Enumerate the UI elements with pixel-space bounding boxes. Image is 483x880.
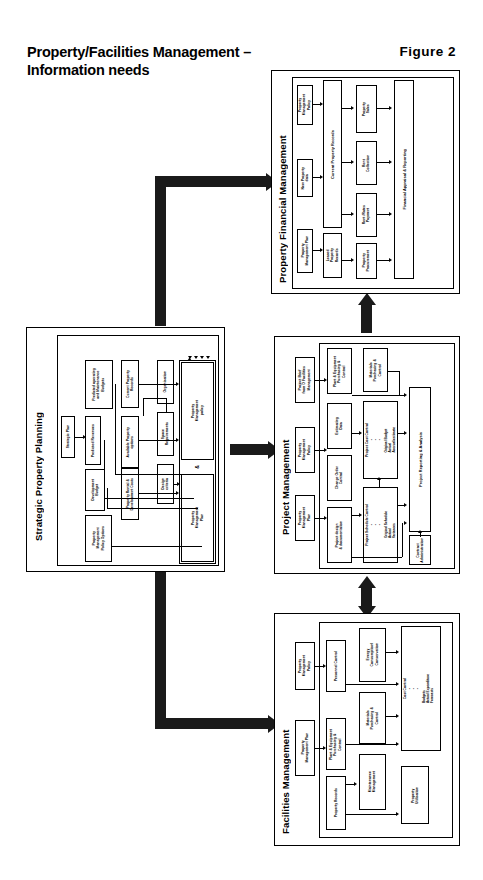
node-pfm-rent-rates-payment[interactable]: Rent /Rates Payment — [356, 193, 377, 237]
node-bullets: Budgets Actual Expenditure Forecasts — [422, 674, 434, 703]
node-pm-property-management-policy[interactable]: Property Management Policy — [295, 427, 315, 473]
node-fm-energy-consumption[interactable]: Energy Consumption/ Conservation — [359, 628, 386, 682]
section-title-property-financial-management: Property Financial Management — [277, 83, 288, 283]
node-fm-property-records[interactable]: Property Records — [326, 776, 346, 830]
node-fm-property-management-plan[interactable]: Property Management Plan — [295, 720, 315, 776]
node-label: Property Management Plan — [301, 236, 310, 266]
node-pfm-rent-collection[interactable]: Rent Collection — [356, 141, 377, 185]
section-title-project-management: Project Management — [280, 375, 291, 535]
flow-pm-to-pfm-arrowhead — [358, 293, 376, 305]
node-label: Design criteria — [161, 478, 170, 490]
conn-spp-org-v — [143, 398, 144, 416]
node-label: Property Procurement — [362, 250, 371, 271]
section-project-management[interactable]: Project Management Project Brief from O … — [274, 336, 460, 574]
node-label: Rent /Rates Payment — [362, 205, 371, 224]
node-label: New Property data — [301, 167, 310, 189]
node-pm-project-brief[interactable]: Project Brief from O Facilities Manageme… — [295, 357, 315, 403]
node-pm-materials-purchasing[interactable]: Materials Purchasing & Control — [363, 348, 388, 392]
section-property-financial-management[interactable]: Property Financial Management Property M… — [271, 70, 460, 294]
conn-spp-feed1-h — [115, 474, 190, 475]
conn-spp-current-policy-arrowhead — [176, 382, 179, 386]
node-label: Predicted operating and Maintenance Budg… — [92, 368, 105, 401]
node-space-requirements[interactable]: Space Requirements — [157, 412, 174, 456]
node-label: Materials Purchasing & Control — [366, 707, 379, 729]
conn-pm-plant-report — [352, 395, 405, 396]
node-fm-maintenance-management[interactable]: Maintenance Management — [359, 754, 386, 810]
conn-fm-energy-cost-arrowhead — [396, 650, 399, 654]
section-title-facilities-management: Facilities Management — [280, 684, 291, 834]
node-fm-property-utilisation[interactable]: Property Utilisation — [401, 766, 429, 824]
node-fm-materials-purchasing[interactable]: Materials Purchasing & Control — [359, 692, 386, 744]
node-pfm-property-procurement[interactable]: Property Procurement — [356, 243, 377, 279]
node-bullet-marks: • • • — [370, 524, 382, 525]
node-predicted-revenues[interactable]: Predicted Revenues — [85, 416, 101, 465]
conn-spp-groupentry-4 — [206, 356, 210, 359]
node-bullets: Original Schedule Actual Variances — [384, 511, 396, 538]
node-pfm-property-sales[interactable]: Property Sales — [356, 85, 377, 133]
node-label: Property Management Plan — [301, 733, 310, 763]
node-label: Current Property Records — [126, 370, 135, 398]
node-fm-personnel-control[interactable]: Personnel Control — [326, 640, 346, 692]
section-strategic-property-planning[interactable]: Strategic Property Planning Strategic Pl… — [26, 327, 225, 572]
conn-spp-available-policy — [139, 440, 177, 441]
node-pm-estimating-data[interactable]: Estimating Data — [327, 403, 352, 449]
node-label: Rent Collection — [362, 155, 371, 172]
node-property-rental-development-costs[interactable]: Property Rental & Development Costs — [121, 468, 139, 520]
node-pfm-leased-property-records[interactable]: Leased Property Records — [323, 233, 342, 278]
node-label: Plant & Equipment Purchasing & Control — [329, 729, 342, 760]
conn-spp-current-policy — [139, 384, 177, 385]
node-label: Financial Appraisal & Reporting — [402, 149, 407, 209]
node-predicted-operating-budgets[interactable]: Predicted operating and Maintenance Budg… — [85, 360, 113, 409]
node-pm-project-reporting-analysis[interactable]: Project Reporting & Analysis — [409, 387, 431, 532]
node-label: Space Requirements — [161, 422, 170, 445]
conn-pm-design-out — [352, 557, 402, 558]
flow-spp-to-fm-vertical — [155, 570, 166, 729]
node-pfm-current-property-records[interactable]: Current Property Records — [323, 80, 342, 228]
node-label: Property Utilisation — [411, 787, 420, 804]
node-strategic-plan[interactable]: Strategic Plan — [61, 416, 75, 458]
node-label: Project Brief from O Facilities Manageme… — [298, 366, 311, 393]
conn-fm-personnel-cost-arrowhead — [396, 682, 399, 686]
group-outline-policy-plan — [179, 360, 216, 564]
conn-pm-materials-v — [399, 371, 400, 395]
node-pm-plant-equipment[interactable]: Plant & Equipment Purchasing & Control — [327, 348, 352, 394]
node-available-property-options[interactable]: Available Property options — [121, 416, 139, 468]
node-property-management-policy-options[interactable]: Property Management Policy Options — [85, 515, 112, 562]
conn-spp-feed4-h — [111, 546, 202, 547]
conn-pm-plant-report-arrowhead — [404, 393, 407, 397]
node-fm-cost-control[interactable]: Cost Control • • • Budgets Actual Expend… — [401, 626, 441, 751]
node-fm-plant-equipment[interactable]: Plant & Equipment Purchasing & Control — [326, 718, 346, 770]
node-pm-project-design-documentation[interactable]: Project design & documentation — [327, 507, 352, 563]
node-pm-project-schedule-control[interactable]: Project Schedule Control • • • Original … — [363, 487, 398, 563]
node-label: Project Reporting & Analysis — [418, 432, 423, 487]
section-facilities-management[interactable]: Facilities Management Property Managemen… — [274, 613, 460, 846]
node-label: Property Management Policy Options — [92, 526, 105, 550]
node-pm-property-management-plan[interactable]: Property Management Plan — [295, 495, 315, 541]
node-current-property-records[interactable]: Current Property Records — [121, 360, 139, 408]
conn-spp-feed3-h — [107, 508, 198, 509]
node-label: Development Budget — [91, 479, 100, 501]
node-pm-contract-administration[interactable]: Contract Administration — [409, 535, 431, 565]
node-label: Energy Consumption/ Conservation — [366, 643, 379, 666]
node-development-budget[interactable]: Development Budget — [85, 469, 105, 511]
node-pm-project-cost-control[interactable]: Project Cost Control • • • Original Budg… — [363, 401, 398, 479]
conn-spp-feed2-v — [104, 440, 105, 498]
conn-spp-feed1-v — [115, 384, 116, 474]
conn-spp-groupentry-2 — [194, 356, 198, 359]
node-pfm-property-management-plan[interactable]: Property Management Plan — [297, 229, 313, 273]
conn-spp-available-policy-arrowhead — [176, 438, 179, 442]
conn-fm-materials-cost-arrowhead — [396, 714, 399, 718]
node-label: Plant & Equipment Purchasing & Control — [333, 356, 346, 387]
node-pfm-financial-appraisal-reporting[interactable]: Financial Appraisal & Reporting — [394, 80, 414, 279]
node-pm-change-order-control[interactable]: Change Order Control — [327, 455, 352, 501]
conn-pm-cost-sched-arrowhead — [377, 477, 381, 480]
node-pfm-new-property-data[interactable]: New Property data — [297, 159, 313, 197]
node-fm-property-management-policy[interactable]: Property Management Policy — [295, 642, 315, 690]
conn-pm-sched-report-arrowhead — [404, 503, 407, 507]
conn-spp-groupentry-3 — [200, 356, 204, 359]
node-label: Property Management Policy — [298, 655, 311, 676]
node-label: Organisation — [163, 371, 167, 393]
node-label: Property Management Policy — [298, 439, 311, 460]
node-pfm-property-management-policy[interactable]: Property Management Policy — [297, 85, 313, 125]
node-bullet-marks: • • • — [408, 688, 420, 689]
